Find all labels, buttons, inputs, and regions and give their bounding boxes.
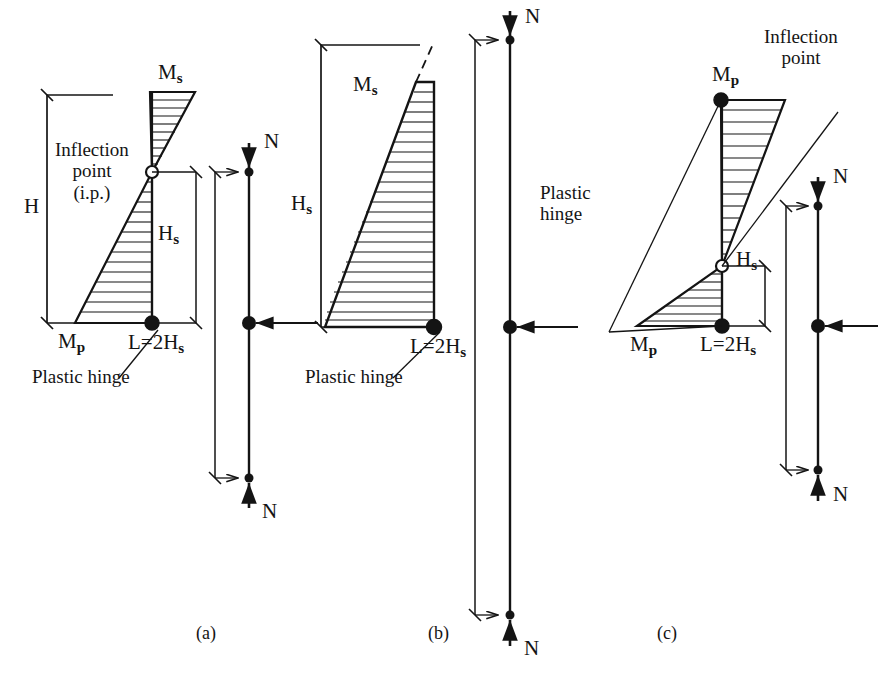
column-bottom-support-c [814, 466, 823, 475]
column-bottom-support-a [245, 474, 254, 483]
base-hinge-b [503, 320, 517, 334]
label-shear-height-a: Hs [158, 222, 179, 248]
label-axial-load-top-b: N [525, 5, 540, 27]
label-length-a: L=2Hs [128, 331, 184, 357]
column-c [811, 177, 878, 501]
moment-diagram-upper-c [721, 100, 785, 266]
label-height-H-a: H [24, 195, 39, 217]
plastic-hinge-line-2-c: hinge [540, 203, 591, 224]
label-axial-load-top-a: N [264, 130, 279, 152]
label-moment-top-a: Ms [158, 61, 183, 87]
label-axial-load-bottom-c: N [833, 483, 848, 505]
panel-caption-a: (a) [196, 624, 216, 643]
inflection-line-2-c: point [764, 47, 838, 68]
label-axial-load-bottom-a: N [262, 500, 277, 522]
label-shear-height-c: Hs [736, 248, 757, 274]
moment-diagram-lower-c [637, 266, 722, 326]
dimension-L-b [469, 34, 498, 621]
column-top-support-c [814, 202, 823, 211]
column-bottom-support-b [506, 611, 515, 620]
moment-dashed-extension-b [416, 42, 434, 82]
label-inflection-point-a: Inflection point (i.p.) [55, 139, 129, 203]
panel-caption-b: (b) [428, 624, 449, 643]
base-hinge-c [811, 319, 825, 333]
plastic-hinge-line-1-c: Plastic [540, 182, 591, 203]
label-axial-load-bottom-b: N [524, 637, 539, 659]
inflection-line-1-c: Inflection [764, 26, 838, 47]
label-plastic-hinge-a: Plastic hinge [32, 367, 130, 387]
inflection-line-2: point [55, 160, 129, 181]
label-plastic-hinge-c: Plastic hinge [540, 182, 591, 225]
dimension-L-a [209, 166, 238, 484]
base-hinge-a [242, 316, 256, 330]
moment-diagram-upper-a [150, 92, 195, 172]
label-length-c: L=2Hs [700, 333, 756, 359]
panel-c-graphics [609, 93, 878, 501]
panel-caption-c: (c) [657, 624, 677, 643]
label-length-b: L=2Hs [410, 335, 466, 361]
inflection-line-3: (i.p.) [55, 182, 129, 203]
column-top-support-a [245, 168, 254, 177]
column-top-support-b [506, 36, 515, 45]
label-axial-load-top-c: N [833, 165, 848, 187]
label-shear-height-b: Hs [291, 192, 312, 218]
label-moment-top-b: Ms [353, 73, 378, 99]
label-plastic-hinge-b: Plastic hinge [305, 367, 403, 387]
label-moment-base-c: Mp [630, 333, 657, 359]
column-b [503, 11, 578, 646]
label-inflection-point-c: Inflection point [764, 26, 838, 69]
moment-diagram-b [325, 82, 434, 327]
inflection-line-1: Inflection [55, 139, 129, 160]
label-moment-base-a: Mp [58, 330, 85, 356]
panel-b-graphics [315, 11, 578, 646]
dimension-L-c [780, 200, 808, 476]
figure-container: Ms H Inflection point (i.p.) Hs Mp L=2Hs… [0, 0, 880, 683]
label-moment-top-c: Mp [712, 63, 739, 89]
